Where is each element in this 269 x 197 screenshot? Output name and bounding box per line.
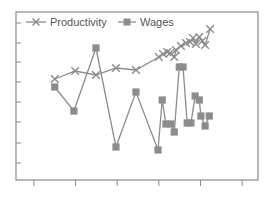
data-point-wages bbox=[51, 83, 58, 90]
line-chart: Productivity Wages bbox=[0, 0, 269, 197]
data-point-wages bbox=[112, 143, 119, 150]
data-point-wages bbox=[202, 122, 209, 129]
series-layer bbox=[51, 25, 214, 153]
y-axis-ticks bbox=[16, 23, 21, 163]
data-point-wages bbox=[70, 107, 77, 114]
data-point-wages bbox=[159, 96, 166, 103]
legend-item-productivity: Productivity bbox=[26, 16, 107, 28]
series-productivity bbox=[51, 25, 214, 83]
data-point-wages bbox=[167, 120, 174, 127]
data-point-wages bbox=[92, 44, 99, 51]
legend-item-wages: Wages bbox=[118, 16, 174, 28]
legend-wages-square-icon bbox=[124, 19, 131, 26]
data-point-wages bbox=[179, 63, 186, 70]
data-point-wages bbox=[154, 146, 161, 153]
legend: Productivity Wages bbox=[26, 16, 174, 28]
data-point-productivity bbox=[51, 75, 59, 83]
data-point-productivity bbox=[206, 25, 214, 33]
data-point-wages bbox=[187, 119, 194, 126]
data-point-wages bbox=[206, 112, 213, 119]
legend-productivity-label: Productivity bbox=[50, 16, 107, 28]
data-point-productivity bbox=[195, 33, 203, 41]
series-line-productivity bbox=[55, 29, 210, 79]
data-point-wages bbox=[171, 128, 178, 135]
legend-wages-label: Wages bbox=[140, 16, 174, 28]
series-line-wages bbox=[55, 48, 210, 150]
x-axis-ticks bbox=[34, 180, 242, 186]
data-point-productivity bbox=[201, 41, 209, 49]
data-point-wages bbox=[196, 96, 203, 103]
data-point-wages bbox=[197, 112, 204, 119]
data-point-productivity bbox=[155, 53, 163, 61]
data-point-wages bbox=[132, 88, 139, 95]
series-wages bbox=[51, 44, 213, 153]
